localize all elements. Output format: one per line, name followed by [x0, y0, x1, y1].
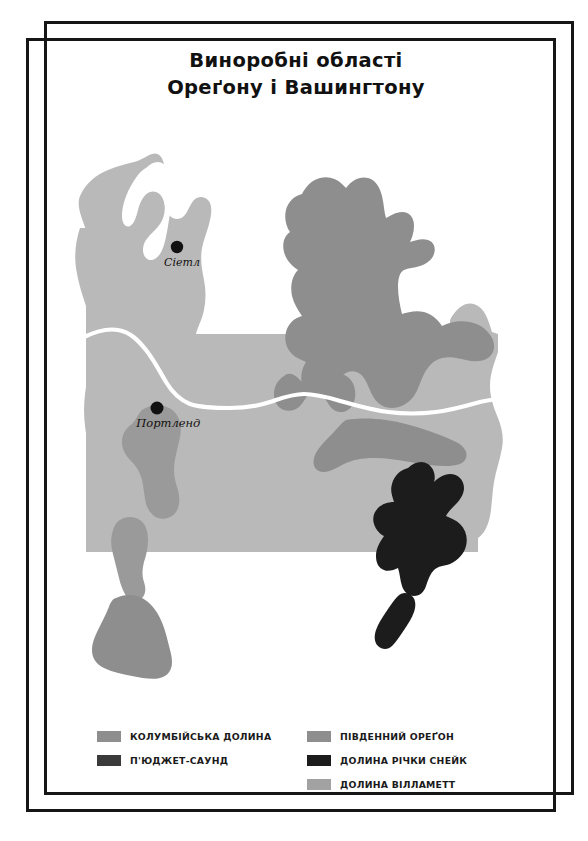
region-snake-river-valley-tail: [375, 593, 416, 649]
city-marker-portland: [151, 402, 164, 415]
legend-label-willamette-valley: ДОЛИНА ВІЛЛАМЕТТ: [340, 780, 455, 789]
legend-swatch-snake-river-valley: [307, 755, 331, 766]
legend-column-right: ПІВДЕННИЙ ОРЕҐОН ДОЛИНА РІЧКИ СНЕЙК ДОЛИ…: [307, 726, 495, 802]
wine-regions-map: Сіетл Портленд: [46, 120, 546, 700]
legend-item-willamette-valley[interactable]: ДОЛИНА ВІЛЛАМЕТТ: [307, 776, 495, 793]
legend-item-puget-sound[interactable]: П'ЮДЖЕТ-САУНД: [97, 752, 285, 769]
legend-swatch-puget-sound: [97, 755, 121, 766]
legend-label-southern-oregon: ПІВДЕННИЙ ОРЕҐОН: [340, 732, 454, 741]
region-southern-oregon: [92, 595, 172, 679]
title-line-2: Ореґону і Вашингтону: [46, 75, 546, 102]
city-label-portland: Портленд: [135, 416, 200, 430]
legend-item-columbia-valley[interactable]: КОЛУМБІЙСЬКА ДОЛИНА: [97, 728, 285, 745]
page-title: Виноробні області Ореґону і Вашингтону: [46, 48, 546, 102]
legend-item-southern-oregon[interactable]: ПІВДЕННИЙ ОРЕҐОН: [307, 728, 495, 745]
map-legend: КОЛУМБІЙСЬКА ДОЛИНА П'ЮДЖЕТ-САУНД ПІВДЕН…: [46, 726, 546, 802]
legend-item-snake-river-valley[interactable]: ДОЛИНА РІЧКИ СНЕЙК: [307, 752, 495, 769]
city-label-seattle: Сіетл: [164, 256, 200, 269]
map-svg: Сіетл Портленд: [46, 120, 546, 700]
city-marker-seattle: [171, 241, 183, 253]
legend-label-snake-river-valley: ДОЛИНА РІЧКИ СНЕЙК: [340, 756, 467, 765]
legend-label-puget-sound: П'ЮДЖЕТ-САУНД: [130, 756, 228, 765]
legend-column-left: КОЛУМБІЙСЬКА ДОЛИНА П'ЮДЖЕТ-САУНД: [97, 726, 285, 802]
legend-swatch-southern-oregon: [307, 731, 331, 742]
region-willamette-valley-mid: [111, 517, 148, 601]
legend-label-columbia-valley: КОЛУМБІЙСЬКА ДОЛИНА: [130, 732, 271, 741]
legend-swatch-columbia-valley: [97, 731, 121, 742]
title-line-1: Виноробні області: [46, 48, 546, 75]
legend-swatch-willamette-valley: [307, 779, 331, 790]
